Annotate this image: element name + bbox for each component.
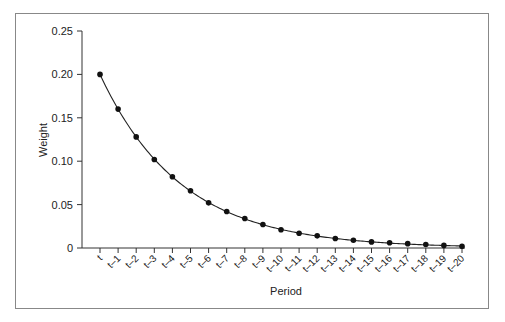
x-tick-label: t–3: [141, 252, 159, 270]
data-point: [314, 233, 320, 239]
data-point: [224, 209, 230, 215]
data-point: [133, 134, 139, 140]
data-point: [152, 157, 158, 163]
data-point: [296, 230, 302, 236]
data-point: [405, 241, 411, 247]
data-point: [441, 243, 447, 249]
x-tick-label: t–10: [264, 252, 286, 274]
data-point: [188, 188, 194, 194]
x-tick-label: t–8: [232, 252, 250, 270]
x-tick-label: t–2: [123, 252, 141, 270]
data-point: [206, 200, 212, 206]
x-tick-label: t–7: [214, 252, 232, 270]
data-point: [423, 242, 429, 248]
y-axis-label: Weight: [37, 123, 49, 157]
x-tick-label: t–1: [105, 252, 123, 270]
data-point: [97, 72, 103, 78]
x-tick-label: t–15: [354, 252, 376, 274]
data-point: [115, 106, 121, 112]
x-tick-label: t–12: [300, 252, 322, 274]
line-chart: 00.050.100.150.200.25Weighttt–1t–2t–3t–4…: [0, 0, 505, 322]
x-tick-label: t–6: [195, 252, 213, 270]
x-tick-label: t–19: [427, 252, 449, 274]
y-tick-label: 0.05: [52, 199, 73, 211]
x-tick-label: t–18: [409, 252, 431, 274]
data-point: [459, 243, 465, 249]
y-tick-label: 0.10: [52, 155, 73, 167]
data-point: [369, 239, 375, 245]
y-tick-label: 0: [67, 242, 73, 254]
y-tick-label: 0.25: [52, 25, 73, 37]
x-tick-label: t–17: [391, 252, 413, 274]
data-point: [333, 236, 339, 242]
data-point: [278, 227, 284, 233]
x-tick-label: t–13: [318, 252, 340, 274]
data-point: [351, 237, 357, 243]
x-tick-label: t–5: [177, 252, 195, 270]
y-tick-label: 0.15: [52, 112, 73, 124]
data-point: [387, 240, 393, 246]
data-point: [170, 174, 176, 180]
x-axis-label: Period: [270, 285, 302, 297]
data-point: [242, 216, 248, 222]
x-tick-label: t–16: [372, 252, 394, 274]
x-tick-label: t–11: [282, 252, 303, 273]
y-tick-label: 0.20: [52, 68, 73, 80]
x-tick-label: t: [95, 252, 105, 262]
data-point: [260, 222, 266, 228]
x-tick-label: t–4: [159, 252, 177, 270]
x-tick-label: t–14: [336, 252, 358, 274]
x-tick-label: t–20: [445, 252, 467, 274]
